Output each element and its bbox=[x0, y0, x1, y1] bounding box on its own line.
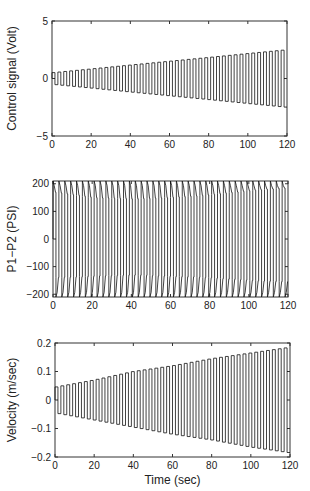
x-tick-label: 20 bbox=[86, 139, 98, 150]
x-tick-label: 0 bbox=[50, 300, 56, 311]
y-axis-label: Velocity (m/sec) bbox=[5, 358, 19, 443]
x-tick-label: 60 bbox=[164, 139, 176, 150]
x-axis-label: Time (sec) bbox=[144, 473, 200, 487]
data-line bbox=[52, 50, 287, 107]
x-tick-label: 40 bbox=[128, 460, 140, 471]
x-tick-label: 120 bbox=[280, 300, 297, 311]
y-tick-label: 5 bbox=[42, 16, 48, 27]
figure: 020406080100120−505Control signal (Volt)… bbox=[0, 0, 310, 491]
x-tick-label: 100 bbox=[242, 460, 259, 471]
control-signal-plot: 020406080100120−505Control signal (Volt) bbox=[5, 16, 296, 151]
x-tick-label: 80 bbox=[206, 460, 218, 471]
pressure-difference-plot: 020406080100120−200−1000100200P1−P2 (PSI… bbox=[5, 178, 297, 311]
y-tick-label: 0 bbox=[42, 73, 48, 84]
x-tick-label: 60 bbox=[167, 460, 179, 471]
x-tick-label: 0 bbox=[52, 460, 58, 471]
x-tick-label: 60 bbox=[165, 300, 177, 311]
y-tick-label: 200 bbox=[32, 178, 49, 189]
y-tick-label: 100 bbox=[32, 206, 49, 217]
y-axis-label: Control signal (Volt) bbox=[5, 26, 19, 131]
y-tick-label: 0 bbox=[45, 395, 51, 406]
x-tick-label: 120 bbox=[282, 460, 299, 471]
velocity-plot: 020406080100120−0.2−0.100.10.2Velocity (… bbox=[5, 338, 299, 488]
x-tick-label: 0 bbox=[49, 139, 55, 150]
x-tick-label: 100 bbox=[239, 139, 256, 150]
y-tick-label: −0.2 bbox=[31, 452, 51, 463]
data-line bbox=[53, 181, 288, 297]
x-tick-label: 40 bbox=[125, 139, 137, 150]
x-tick-label: 80 bbox=[203, 139, 215, 150]
y-tick-label: −200 bbox=[26, 289, 49, 300]
y-axis-label: P1−P2 (PSI) bbox=[5, 205, 19, 272]
y-tick-label: 0.2 bbox=[37, 338, 51, 349]
y-tick-label: 0 bbox=[43, 234, 49, 245]
y-tick-label: 0.1 bbox=[37, 366, 51, 377]
x-tick-label: 20 bbox=[89, 460, 101, 471]
data-line bbox=[55, 348, 290, 453]
y-tick-label: −0.1 bbox=[31, 423, 51, 434]
y-tick-label: −5 bbox=[37, 131, 49, 142]
x-tick-label: 100 bbox=[240, 300, 257, 311]
x-tick-label: 40 bbox=[126, 300, 138, 311]
x-tick-label: 120 bbox=[279, 139, 296, 150]
x-tick-label: 80 bbox=[204, 300, 216, 311]
y-tick-label: −100 bbox=[26, 261, 49, 272]
x-tick-label: 20 bbox=[87, 300, 99, 311]
